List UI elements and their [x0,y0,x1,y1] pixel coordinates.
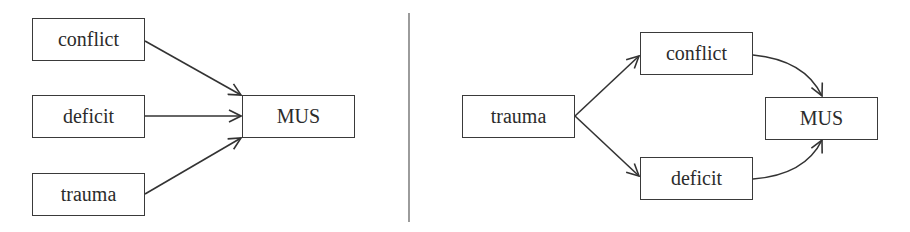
right-node-trauma: trauma [462,95,575,138]
node-label: conflict [58,28,119,51]
right-node-deficit: deficit [640,157,753,200]
left-node-conflict: conflict [32,18,145,61]
right-node-mus: MUS [765,97,878,140]
left-node-mus: MUS [242,95,355,138]
node-label: MUS [277,105,320,128]
left-node-deficit: deficit [32,95,145,138]
arrow-trauma-to-deficit [575,116,639,176]
left-arrows [145,41,241,194]
arrow-deficit-to-mus [753,140,822,179]
arrow-trauma-to-mus [145,138,241,194]
arrow-trauma-to-conflict [575,56,639,116]
node-label: MUS [800,107,843,130]
right-node-conflict: conflict [640,32,753,75]
arrow-conflict-to-mus [145,41,241,95]
arrow-conflict-to-mus [753,55,822,96]
left-node-trauma: trauma [32,173,145,216]
node-label: deficit [671,167,722,190]
node-label: trauma [61,183,117,206]
node-label: trauma [491,105,547,128]
node-label: conflict [666,42,727,65]
node-label: deficit [63,105,114,128]
